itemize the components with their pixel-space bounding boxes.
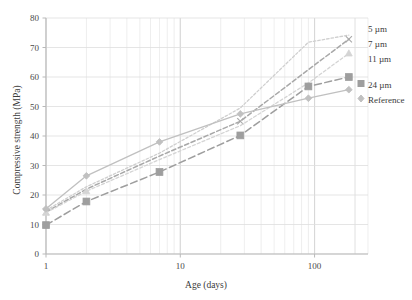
chart-background (0, 0, 412, 300)
y-axis-title: Compressive strength (MPa) (12, 85, 23, 194)
y-tick-label: 40 (30, 131, 40, 141)
y-tick-label: 60 (30, 72, 40, 82)
y-tick-label: 20 (30, 190, 40, 200)
y-tick-label: 70 (30, 43, 40, 53)
y-tick-label: 80 (30, 13, 40, 23)
x-tick-label: 100 (308, 261, 322, 271)
legend-label: 5 µm (368, 24, 387, 34)
x-tick-label: 10 (176, 261, 186, 271)
legend-item-11-µm[interactable]: 11 µm (368, 54, 391, 64)
legend-label: 7 µm (368, 39, 387, 49)
data-point-marker-square (43, 222, 50, 229)
y-tick-label: 30 (30, 161, 40, 171)
data-point-marker-square (156, 169, 163, 176)
y-tick-label: 50 (30, 102, 40, 112)
data-point-marker-square (237, 132, 244, 139)
x-axis-title: Age (days) (185, 280, 227, 291)
data-point-marker-square (83, 198, 90, 205)
x-tick-label: 1 (44, 261, 49, 271)
data-point-marker-square (305, 83, 312, 90)
legend-marker-square (358, 81, 364, 87)
y-axis-tick-labels: 01020304050607080 (30, 13, 40, 259)
legend-label: 24 µm (368, 80, 391, 90)
legend-item-7-µm[interactable]: 7 µm (368, 39, 387, 49)
y-tick-label: 10 (30, 220, 40, 230)
legend-item-5-µm[interactable]: 5 µm (368, 24, 387, 34)
legend-label: 11 µm (368, 54, 391, 64)
compressive-strength-line-chart: 01020304050607080 110100 Compressive str… (0, 0, 412, 300)
chart-container: 01020304050607080 110100 Compressive str… (0, 0, 412, 300)
y-tick-label: 0 (35, 249, 40, 259)
legend-label: Reference (368, 95, 404, 105)
data-point-marker-square (345, 74, 352, 81)
